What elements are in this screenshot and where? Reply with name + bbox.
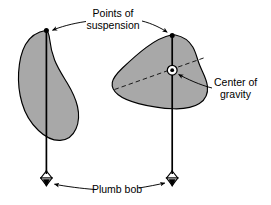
plumb-bob-right <box>166 170 179 186</box>
diagram-canvas: Points of suspension Center of gravity P… <box>0 0 271 205</box>
body-pear-group <box>18 28 78 186</box>
suspension-point-dot-left <box>44 28 49 33</box>
points-of-suspension-label-line2: suspension <box>86 19 139 31</box>
suspension-point-dot-right <box>170 33 175 38</box>
points-of-suspension-label-line1: Points of <box>93 7 134 19</box>
center-of-gravity-label-line2: gravity <box>220 88 252 100</box>
leader-line-plumb-bob-left <box>55 184 96 189</box>
leader-line-plumb-bob-right <box>139 183 165 188</box>
leader-line-suspension-right <box>142 21 167 32</box>
plumb-bob-left <box>40 170 53 186</box>
rounded-blob-body-outline <box>112 35 207 109</box>
plumb-bob-label: Plumb bob <box>92 183 142 195</box>
pear-shaped-body-outline <box>18 30 78 140</box>
center-of-gravity-figure: Points of suspension Center of gravity P… <box>0 0 271 205</box>
leader-line-suspension-left <box>53 22 87 31</box>
center-of-gravity-marker <box>167 65 177 75</box>
body-blob-group <box>112 33 207 187</box>
center-of-gravity-label-line1: Center of <box>214 76 257 88</box>
